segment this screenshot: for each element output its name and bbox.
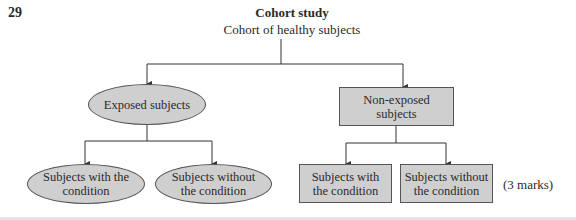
marks-label: (3 marks): [503, 177, 553, 193]
exposed-subjects-node: Exposed subjects: [88, 84, 206, 125]
exposed-subjects-label: Exposed subjects: [104, 98, 190, 112]
non-exposed-without-condition-node: Subjects without the condition: [400, 164, 493, 203]
non-exposed-with-condition-label: Subjects with the condition: [303, 170, 388, 198]
exposed-without-condition-label: Subjects without the condition: [168, 170, 259, 198]
exposed-with-condition-node: Subjects with the condition: [27, 164, 145, 204]
bottom-divider: [0, 217, 576, 220]
non-exposed-without-condition-label: Subjects without the condition: [404, 170, 489, 198]
non-exposed-with-condition-node: Subjects with the condition: [299, 164, 392, 203]
exposed-with-condition-label: Subjects with the condition: [38, 170, 134, 198]
non-exposed-subjects-label: Non-exposed subjects: [358, 93, 435, 121]
exposed-without-condition-node: Subjects without the condition: [155, 164, 272, 204]
non-exposed-subjects-node: Non-exposed subjects: [339, 87, 454, 126]
